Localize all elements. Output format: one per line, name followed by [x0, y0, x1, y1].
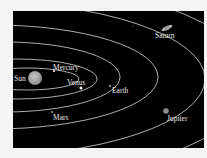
solar-system-diagram: Sun Mercury Venus Earth Mars Jupiter [13, 11, 204, 148]
earth-icon [109, 85, 111, 87]
earth-label: Earth [112, 86, 128, 95]
sun-icon [28, 71, 42, 85]
sun-label: Sun [14, 74, 26, 83]
venus-label: Venus [67, 78, 85, 87]
orbit-diagram-svg: Sun Mercury Venus Earth Mars Jupiter [13, 11, 204, 148]
mars-label: Mars [53, 113, 68, 122]
jupiter-label: Jupiter [167, 114, 188, 123]
planet-jupiter: Jupiter [163, 108, 188, 123]
planet-mercury: Mercury [53, 63, 79, 72]
mercury-label: Mercury [53, 63, 79, 72]
planet-earth: Earth [109, 85, 129, 95]
planet-mars: Mars [51, 111, 68, 122]
jupiter-icon [163, 108, 169, 114]
sun: Sun [14, 71, 42, 85]
planet-saturn: Saturn [155, 24, 175, 40]
saturn-label: Saturn [155, 31, 175, 40]
planet-venus: Venus [67, 78, 85, 90]
star-dot [132, 25, 133, 26]
